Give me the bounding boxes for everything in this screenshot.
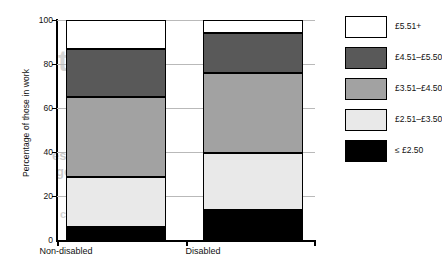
bar-segment xyxy=(66,49,166,97)
x-axis-category-disabled: Disabled xyxy=(143,246,263,256)
x-axis-category-non-disabled: Non-disabled xyxy=(6,246,126,256)
y-tick-mark-40 xyxy=(52,152,57,153)
y-tick-label-0: 0 xyxy=(27,235,53,245)
legend-label-3: £2.51–£3.50 xyxy=(395,114,442,124)
legend-item: £3.51–£4.50 xyxy=(345,76,437,107)
legend-swatch-0 xyxy=(345,16,387,38)
y-tick-label-40: 40 xyxy=(27,147,53,157)
y-tick-label-100: 100 xyxy=(27,15,53,25)
legend-label-0: £5.51+ xyxy=(395,21,421,31)
bar-disabled xyxy=(203,20,303,240)
y-tick-label-80: 80 xyxy=(27,59,53,69)
legend-item: £2.51–£3.50 xyxy=(345,107,437,138)
y-tick-mark-100 xyxy=(52,20,57,21)
bar-segment xyxy=(203,153,303,210)
bar-segment xyxy=(66,20,166,49)
legend-label-1: £4.51–£5.50 xyxy=(395,52,442,62)
bar-segment xyxy=(203,73,303,153)
bar-segment xyxy=(203,20,303,33)
y-tick-mark-20 xyxy=(52,196,57,197)
bar-segment xyxy=(203,210,303,240)
y-axis-ticks: 020406080100 xyxy=(27,20,53,240)
legend-item: ≤ £2.50 xyxy=(345,138,437,169)
bar-segment xyxy=(203,33,303,73)
y-tick-mark-80 xyxy=(52,64,57,65)
legend-swatch-2 xyxy=(345,78,387,100)
bar-segment xyxy=(66,177,166,227)
legend-swatch-4 xyxy=(345,140,387,162)
legend-swatch-1 xyxy=(345,47,387,69)
y-tick-label-60: 60 xyxy=(27,103,53,113)
bar-segment xyxy=(66,97,166,177)
legend-label-4: ≤ £2.50 xyxy=(395,145,423,155)
x-tick-mark-2 xyxy=(314,240,316,246)
y-tick-mark-60 xyxy=(52,108,57,109)
legend-swatch-3 xyxy=(345,109,387,131)
plot-area xyxy=(57,20,315,240)
legend-item: £5.51+ xyxy=(345,14,437,45)
legend: £5.51+£4.51–£5.50£3.51–£4.50£2.51–£3.50≤… xyxy=(345,14,437,169)
legend-item: £4.51–£5.50 xyxy=(345,45,437,76)
legend-label-2: £3.51–£4.50 xyxy=(395,83,442,93)
bar-non-disabled xyxy=(66,20,166,240)
bar-segment xyxy=(66,227,166,240)
y-tick-label-20: 20 xyxy=(27,191,53,201)
